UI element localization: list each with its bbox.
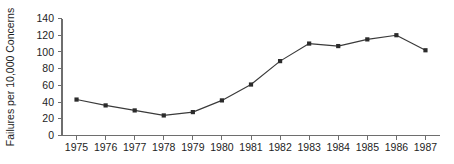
data-point-marker: [365, 37, 369, 41]
y-tick-label: 60: [42, 79, 54, 91]
y-tick-label: 20: [42, 112, 54, 124]
data-point-marker: [74, 97, 78, 101]
data-point-marker: [249, 82, 253, 86]
y-tick-label: 140: [36, 12, 54, 24]
x-tick-label: 1984: [327, 141, 351, 153]
data-series: [74, 33, 427, 117]
x-tick-label: 1983: [297, 141, 321, 153]
x-tick-label: 1975: [65, 141, 89, 153]
chart-container: Failures per 10,000 Concerns 02040608010…: [0, 0, 454, 164]
data-point-marker: [220, 98, 224, 102]
x-tick-label: 1981: [239, 141, 263, 153]
data-point-marker: [394, 33, 398, 37]
x-tick-label: 1977: [123, 141, 147, 153]
x-axis: 1975197619771978197919801981198219831984…: [62, 136, 440, 153]
line-chart: Failures per 10,000 Concerns 02040608010…: [0, 0, 454, 164]
x-tick-label: 1987: [414, 141, 438, 153]
x-tick-label: 1976: [94, 141, 118, 153]
y-axis-title: Failures per 10,000 Concerns: [4, 8, 16, 146]
y-axis-title-label: Failures per 10,000 Concerns: [4, 8, 16, 146]
data-point-marker: [191, 110, 195, 114]
data-point-marker: [133, 108, 137, 112]
data-point-marker: [104, 103, 108, 107]
x-tick-label: 1980: [210, 141, 234, 153]
x-tick-label: 1982: [268, 141, 292, 153]
data-point-marker: [278, 59, 282, 63]
x-tick-label: 1986: [385, 141, 409, 153]
data-point-marker: [307, 41, 311, 45]
y-tick-label: 40: [42, 96, 54, 108]
y-tick-label: 120: [36, 29, 54, 41]
y-tick-label: 100: [36, 46, 54, 58]
y-tick-label: 0: [48, 129, 54, 141]
data-point-marker: [162, 113, 166, 117]
x-tick-label: 1978: [152, 141, 176, 153]
y-tick-label: 80: [42, 62, 54, 74]
x-tick-label: 1985: [356, 141, 380, 153]
series-line: [77, 35, 426, 115]
data-point-marker: [336, 44, 340, 48]
y-axis: 020406080100120140: [36, 12, 62, 141]
data-point-marker: [423, 48, 427, 52]
x-tick-label: 1979: [181, 141, 205, 153]
